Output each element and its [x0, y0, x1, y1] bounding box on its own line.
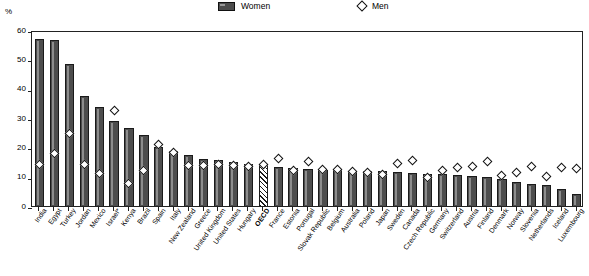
- legend-label-women: Women: [241, 2, 270, 11]
- bar-slot[interactable]: [199, 32, 208, 207]
- bar-slot[interactable]: [393, 32, 402, 207]
- y-axis-unit-label: %: [5, 8, 12, 16]
- legend-item-men: Men: [358, 2, 389, 11]
- chart-container: Women Men % 0102030405060 IndiaEgyptTurk…: [0, 0, 589, 276]
- y-tick-label: 60: [4, 27, 26, 35]
- bar-slot[interactable]: [288, 32, 297, 207]
- bar-slot[interactable]: [363, 32, 372, 207]
- bar-slot[interactable]: [50, 32, 59, 207]
- plot-area: 0102030405060: [31, 31, 583, 207]
- y-tick-label: 30: [4, 115, 26, 123]
- y-tick-label: 20: [4, 144, 26, 152]
- bar-women-egypt[interactable]: [50, 40, 59, 207]
- bar-slot[interactable]: [274, 32, 283, 207]
- bar-slot[interactable]: [139, 32, 148, 207]
- bar-slot[interactable]: [169, 32, 178, 207]
- bar-swatch-icon: [218, 2, 235, 11]
- bar-slot[interactable]: [109, 32, 118, 207]
- x-label-text: Spain: [151, 207, 167, 226]
- x-label-text: Italy: [169, 207, 182, 222]
- bar-series-group: [32, 32, 582, 207]
- bar-slot[interactable]: [408, 32, 417, 207]
- bar-slot[interactable]: [512, 32, 521, 207]
- bar-slot[interactable]: [184, 32, 193, 207]
- bar-slot[interactable]: [318, 32, 327, 207]
- legend-item-women: Women: [218, 2, 270, 11]
- bar-slot[interactable]: [557, 32, 566, 207]
- bar-slot[interactable]: [467, 32, 476, 207]
- bar-slot[interactable]: [438, 32, 447, 207]
- y-tick-label: 10: [4, 173, 26, 181]
- bar-gloss: [37, 41, 39, 205]
- x-label-text: India: [33, 207, 47, 223]
- bar-slot[interactable]: [80, 32, 89, 207]
- bar-women-india[interactable]: [35, 39, 44, 207]
- x-label-text: Brazil: [136, 207, 152, 225]
- bar-slot[interactable]: [95, 32, 104, 207]
- bar-slot[interactable]: [303, 32, 312, 207]
- bar-slot[interactable]: [333, 32, 342, 207]
- bar-slot[interactable]: [497, 32, 506, 207]
- x-axis-labels: IndiaEgyptTurkeyJordanMexicoIsrael*Kenya…: [0, 207, 589, 276]
- bar-slot[interactable]: [527, 32, 536, 207]
- bar-slot[interactable]: [154, 32, 163, 207]
- bar-slot[interactable]: [65, 32, 74, 207]
- legend-label-men: Men: [372, 2, 389, 11]
- y-tick-label: 40: [4, 85, 26, 93]
- chart-legend: Women Men: [0, 2, 589, 18]
- bar-gloss: [52, 42, 54, 205]
- diamond-marker-icon: [356, 1, 367, 12]
- bar-slot[interactable]: [35, 32, 44, 207]
- bar-slot[interactable]: [229, 32, 238, 207]
- y-tick-label: 50: [4, 56, 26, 64]
- bar-slot[interactable]: [378, 32, 387, 207]
